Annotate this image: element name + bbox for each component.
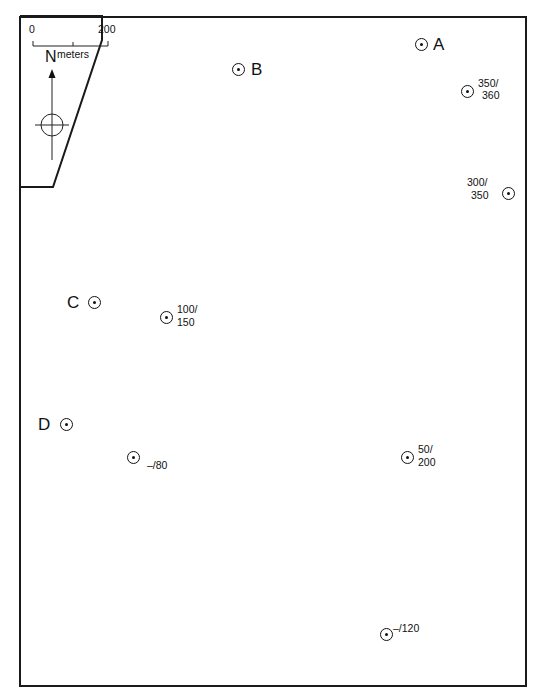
site-marker-icon <box>60 418 73 431</box>
reading-top: 100/ <box>177 303 197 316</box>
reading-bottom: 350 <box>471 189 489 202</box>
station-marker-icon <box>401 451 414 464</box>
site-label: D <box>38 416 50 433</box>
station-marker-icon <box>127 451 140 464</box>
station-marker-icon <box>502 187 515 200</box>
north-label: N <box>45 48 57 65</box>
reading: –/120 <box>393 622 419 635</box>
inset-panel <box>0 0 140 200</box>
station-marker-icon <box>461 85 474 98</box>
reading-bottom: 200 <box>418 456 436 469</box>
reading-bottom: 150 <box>177 316 195 329</box>
site-label: B <box>251 61 262 78</box>
reading: –/80 <box>147 459 167 472</box>
reading-bottom: 360 <box>482 89 500 102</box>
scale-unit-label: meters <box>57 48 89 60</box>
reading-top: 50/ <box>418 443 433 456</box>
station-marker-icon <box>160 311 173 324</box>
reading-top: 300/ <box>467 176 487 189</box>
scale-end-label: 200 <box>98 23 116 35</box>
site-marker-icon <box>88 296 101 309</box>
north-arrow-icon <box>35 69 69 160</box>
scale-start-label: 0 <box>29 23 35 35</box>
site-marker-icon <box>232 63 245 76</box>
site-label: A <box>433 36 444 53</box>
scale-bar <box>33 41 108 46</box>
site-label: C <box>67 294 79 311</box>
site-marker-icon <box>415 38 428 51</box>
station-marker-icon <box>380 628 393 641</box>
